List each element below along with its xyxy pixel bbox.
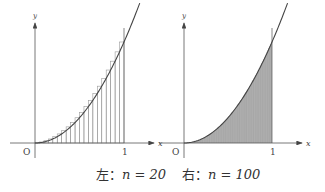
riemann-rect [111,61,115,143]
y-axis-label: y [181,12,187,20]
x-axis-label: x [306,139,311,148]
right-plot-n100: O1xy [159,3,311,158]
y-axis-label: y [32,12,38,20]
riemann-rect [106,70,110,143]
origin-label: O [172,147,179,157]
riemann-rect [93,94,97,143]
left-caption-expr: n = 20 [122,167,166,182]
left-caption-prefix: 左： [96,167,122,182]
tick-label-1: 1 [122,147,128,157]
origin-label: O [23,147,30,157]
left-caption: 左：n = 20 [96,164,166,183]
right-caption-prefix: 右： [182,167,208,182]
right-caption: 右：n = 100 [182,164,260,183]
left-plot-n20: O1xy [10,3,163,158]
x-axis-label: x [158,139,163,148]
riemann-rect [115,52,119,143]
riemann-rect [120,42,124,143]
right-caption-expr: n = 100 [208,167,260,182]
riemann-rect [88,100,92,143]
tick-label-1: 1 [270,147,276,157]
riemann-rect [97,86,101,143]
riemann-rect [102,78,106,143]
